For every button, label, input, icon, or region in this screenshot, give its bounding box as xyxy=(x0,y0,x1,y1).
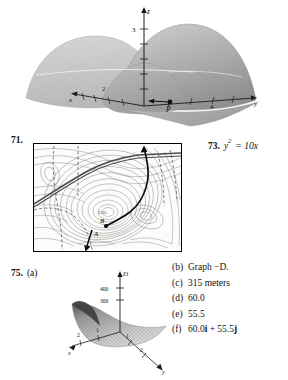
y-axis-label: y xyxy=(253,100,258,108)
answer-value-b: Graph −D. xyxy=(188,262,229,272)
d-axis-label: D xyxy=(122,270,128,278)
depth-surface-figure: D 400 300 1 2 x 1 2 y xyxy=(58,264,170,378)
d-axis-arrowhead xyxy=(117,271,122,277)
problem-75-heading: 75. (a) xyxy=(11,262,37,280)
z-tick-label-3: 3 xyxy=(132,26,136,34)
answer-tag-f: (f) xyxy=(172,324,188,334)
answer-item-d: (d) 60.0 xyxy=(172,293,286,303)
d-tick-label-300: 300 xyxy=(100,298,109,304)
z-axis-label: z xyxy=(146,7,150,16)
d-tick-label-400: 400 xyxy=(100,286,109,292)
answer-tag-d: (d) xyxy=(172,293,188,303)
answer-key-page: z 3 2 x 4 y P 7 xyxy=(0,0,288,380)
point-p-label: P xyxy=(165,105,171,114)
answer-tag-b: (b) xyxy=(172,262,188,272)
answer-tag-c: (c) xyxy=(172,278,188,288)
answer-value-f: 60.0i + 55.5j xyxy=(188,324,237,334)
bottom-x-tick-label-2: 2 xyxy=(77,332,80,338)
contour-map-svg: B A 3105 xyxy=(34,144,181,251)
x-tick-label-2: 2 xyxy=(102,85,105,92)
answer-value-e: 55.5 xyxy=(188,309,205,319)
answer-tag-e: (e) xyxy=(172,309,188,319)
answer-item-c: (c) 315 meters xyxy=(172,278,286,288)
answer-value-d: 60.0 xyxy=(188,293,205,303)
equation-right-side: = 10x xyxy=(235,141,258,151)
depth-surface-svg: D 400 300 1 2 x 1 2 y xyxy=(58,264,170,378)
answer-item-f: (f) 60.0i + 55.5j xyxy=(172,324,286,334)
bottom-x-tick-label-1: 1 xyxy=(96,327,99,333)
z-axis-arrowhead xyxy=(141,7,147,13)
answer-value-c: 315 meters xyxy=(188,278,230,288)
map-point-a-label: A xyxy=(93,230,99,238)
bottom-x-axis-label: x xyxy=(67,349,71,356)
map-summit-elevation: 3105 xyxy=(98,210,108,215)
problem-number-73: 73. xyxy=(208,141,220,151)
row-problem-71-73: 71. xyxy=(0,133,288,253)
bottom-y-tick-label-1: 1 xyxy=(126,333,129,339)
problem-number-75: 75. xyxy=(11,268,23,278)
saddle-surface-figure: z 3 2 x 4 y P xyxy=(18,2,270,128)
saddle-surface-svg: z 3 2 x 4 y P xyxy=(18,2,270,128)
bottom-y-tick-label-2: 2 xyxy=(140,347,143,353)
map-point-b-label: B xyxy=(100,217,105,225)
bottom-y-axis-label: y xyxy=(161,368,165,375)
problem-number-71: 71. xyxy=(11,135,23,145)
map-point-b-marker xyxy=(104,224,108,228)
topographic-contour-map: B A 3105 xyxy=(33,143,182,252)
problem-75-part-a-tag: (a) xyxy=(27,268,38,278)
row-problem-75: 75. (a) xyxy=(0,262,288,378)
equation-exponent: 2 xyxy=(228,137,231,144)
problem-75-answer-list: (b) Graph −D. (c) 315 meters (d) 60.0 (e… xyxy=(172,262,286,340)
answer-item-b: (b) Graph −D. xyxy=(172,262,286,272)
bottom-x-tick-2 xyxy=(80,340,81,346)
answer-item-e: (e) 55.5 xyxy=(172,309,286,319)
problem-73: 73. y2 = 10x xyxy=(208,135,258,153)
